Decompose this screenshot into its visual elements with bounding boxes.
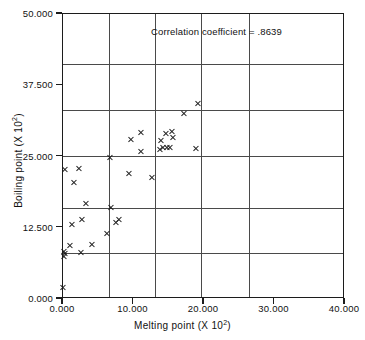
x-axis-tick-label-1: 10.000: [117, 303, 147, 314]
correlation-annotation: Correlation coefficient = .8639: [151, 26, 282, 37]
data-point: [60, 284, 67, 291]
data-point: [79, 216, 86, 223]
x-axis-title-close: ): [227, 320, 231, 331]
horizontal-gridline-2: [63, 156, 343, 157]
data-point: [82, 200, 89, 207]
data-point: [75, 165, 82, 172]
data-point: [158, 137, 165, 144]
data-point: [167, 144, 174, 151]
y-axis-tick-label-0: 0.000: [28, 293, 53, 304]
horizontal-gridline-3: [63, 110, 343, 111]
y-axis-tick-label-4: 50.000: [23, 8, 53, 19]
y-axis-title-close: ): [13, 113, 24, 117]
y-axis-title-exponent: 2: [11, 117, 18, 121]
data-point: [170, 134, 177, 141]
data-point: [62, 166, 69, 173]
data-point: [180, 110, 187, 117]
data-point: [156, 146, 163, 153]
x-axis-tick-label-4: 40.000: [329, 303, 359, 314]
x-axis-tick-label-0: 0.000: [50, 303, 75, 314]
data-point: [192, 145, 199, 152]
x-axis-tick-label-3: 30.000: [258, 303, 288, 314]
data-point: [164, 144, 171, 151]
data-point: [112, 219, 119, 226]
data-point: [126, 170, 133, 177]
horizontal-gridline-1: [63, 208, 343, 209]
y-axis-tick-label-1: 12.500: [23, 221, 53, 232]
data-point: [138, 148, 145, 155]
data-point: [169, 128, 176, 135]
y-axis-tick-label-2: 25.000: [23, 150, 53, 161]
plot-area: [62, 13, 344, 298]
scatter-plot-figure: Boiling point (X 102) Melting point (X 1…: [0, 0, 365, 340]
x-axis-title-base: Melting point (X 10: [134, 320, 223, 331]
data-point: [104, 230, 111, 237]
horizontal-gridline-4: [63, 64, 343, 65]
data-point: [68, 221, 75, 228]
data-point: [67, 242, 74, 249]
horizontal-gridline-0: [63, 253, 343, 254]
data-point: [137, 129, 144, 136]
data-point: [162, 130, 169, 137]
data-point: [194, 100, 201, 107]
y-axis-tick-label-3: 37.500: [23, 79, 53, 90]
data-point: [88, 241, 95, 248]
data-point: [116, 216, 123, 223]
data-point: [70, 179, 77, 186]
y-axis-title-base: Boiling point (X 10: [13, 121, 24, 208]
data-point: [160, 144, 167, 151]
x-axis-title: Melting point (X 102): [0, 320, 365, 331]
x-axis-tick-label-2: 20.000: [188, 303, 218, 314]
data-point: [127, 136, 134, 143]
